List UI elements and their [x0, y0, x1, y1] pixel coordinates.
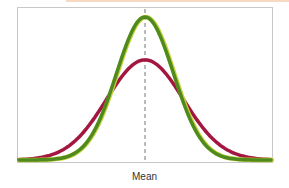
green-curve-highlight [20, 17, 272, 160]
distribution-plot [0, 0, 289, 188]
x-axis-label-mean: Mean [0, 171, 289, 182]
